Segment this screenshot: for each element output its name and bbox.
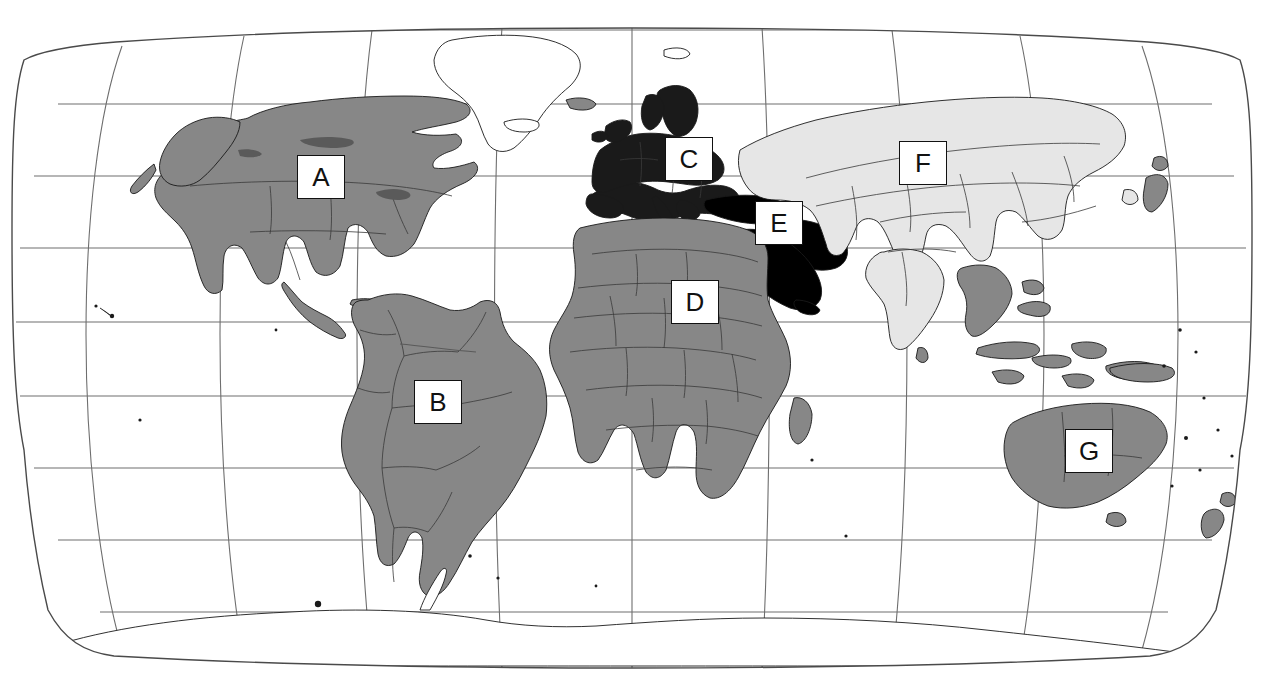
region-label-g-text: G [1079,438,1099,464]
region-label-a-text: A [312,164,329,190]
world-map-svg [0,0,1264,696]
region-label-d[interactable]: D [671,280,719,324]
region-label-c-text: C [680,146,699,172]
region-label-a[interactable]: A [297,155,345,199]
region-label-b[interactable]: B [414,380,462,424]
figure-page: A B C D E F G [0,0,1264,696]
world-map-figure: A B C D E F G [0,0,1264,696]
region-label-e-text: E [770,210,787,236]
region-label-f-text: F [915,150,931,176]
region-label-e[interactable]: E [755,201,803,245]
region-label-d-text: D [686,289,705,315]
map-body [0,0,1264,696]
region-label-g[interactable]: G [1065,429,1113,473]
region-label-c[interactable]: C [665,137,713,181]
region-label-f[interactable]: F [899,141,947,185]
region-label-b-text: B [429,389,446,415]
